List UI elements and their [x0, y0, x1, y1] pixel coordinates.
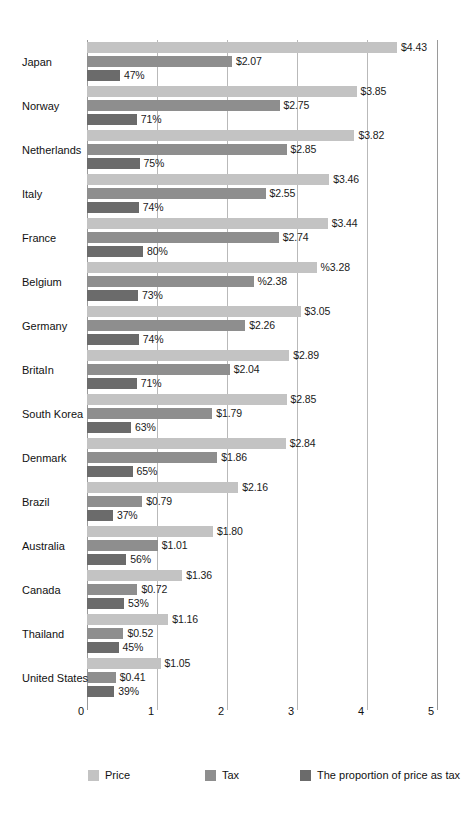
bar-value-label: $1.79 [216, 405, 242, 421]
bar-price [87, 306, 301, 317]
bar-value-label: $2.85 [291, 141, 317, 157]
category-label: Netherlands [0, 143, 78, 157]
bar-chart: $4.43$2.0747%$3.85$2.7571%$3.82$2.8575%$… [0, 0, 467, 816]
category-label: Thailand [0, 627, 78, 641]
bar-value-label: $3.05 [305, 303, 331, 319]
bar-value-label: $1.80 [217, 523, 243, 539]
bar-group: %3.28%2.3873% [87, 262, 437, 306]
bar-prop [87, 378, 137, 389]
bar-tax [87, 56, 232, 67]
category-label: Norway [0, 99, 78, 113]
bar-prop [87, 158, 140, 169]
bar-value-label: %2.38 [258, 273, 287, 289]
legend-item: Tax [205, 766, 239, 784]
bar-group: $1.05$0.4139% [87, 658, 437, 702]
x-tick-label: 0 [78, 704, 87, 718]
bar-tax [87, 144, 287, 155]
bar-price [87, 570, 182, 581]
bar-prop [87, 466, 133, 477]
bar-value-label: 47% [124, 67, 145, 83]
bar-tax [87, 320, 245, 331]
bar-value-label: 71% [141, 111, 162, 127]
x-tick-label: 1 [148, 704, 157, 718]
bar-price [87, 482, 238, 493]
bar-group: $3.44$2.7480% [87, 218, 437, 262]
bar-prop [87, 202, 139, 213]
bar-group: $1.16$0.5245% [87, 614, 437, 658]
bar-value-label: 74% [143, 331, 164, 347]
bar-value-label: $2.55 [270, 185, 296, 201]
bar-value-label: 53% [128, 595, 149, 611]
bar-prop [87, 510, 113, 521]
bar-value-label: $2.74 [283, 229, 309, 245]
bar-tax [87, 452, 217, 463]
category-label: Brazil [0, 495, 78, 509]
bar-tax [87, 276, 254, 287]
bar-value-label: 39% [118, 683, 139, 699]
bar-price [87, 438, 286, 449]
legend-label: The proportion of price as tax [317, 768, 460, 782]
bar-value-label: $3.82 [358, 127, 384, 143]
bar-value-label: $2.85 [291, 391, 317, 407]
bar-value-label: $1.86 [221, 449, 247, 465]
bar-group: $1.80$1.0156% [87, 526, 437, 570]
legend-item: Price [88, 766, 130, 784]
legend-item: The proportion of price as tax [300, 766, 460, 784]
bar-price [87, 394, 287, 405]
bar-prop [87, 334, 139, 345]
x-tick-label: 2 [218, 704, 227, 718]
bar-group: $4.43$2.0747% [87, 42, 437, 86]
bar-prop [87, 290, 138, 301]
bar-tax [87, 188, 266, 199]
legend-swatch [300, 770, 311, 781]
bar-prop [87, 114, 137, 125]
bar-value-label: $3.44 [332, 215, 358, 231]
bar-tax [87, 628, 123, 639]
bar-tax [87, 100, 280, 111]
bar-prop [87, 598, 124, 609]
bar-group: $1.36$0.7253% [87, 570, 437, 614]
bar-group: $3.46$2.5574% [87, 174, 437, 218]
bar-price [87, 614, 168, 625]
bar-value-label: $3.85 [361, 83, 387, 99]
bar-prop [87, 422, 131, 433]
bar-value-label: 80% [147, 243, 168, 259]
bar-value-label: 63% [135, 419, 156, 435]
bar-value-label: 45% [123, 639, 144, 655]
bar-price [87, 658, 161, 669]
bar-group: $3.85$2.7571% [87, 86, 437, 130]
bar-value-label: 75% [144, 155, 165, 171]
bar-value-label: 71% [141, 375, 162, 391]
category-label: France [0, 231, 78, 245]
category-label: Germany [0, 319, 78, 333]
bar-price [87, 350, 289, 361]
legend-label: Price [105, 768, 130, 782]
bar-tax [87, 540, 158, 551]
bar-group: $3.05$2.2674% [87, 306, 437, 350]
bar-value-label: 37% [117, 507, 138, 523]
bar-value-label: $0.79 [146, 493, 172, 509]
plot-area: $4.43$2.0747%$3.85$2.7571%$3.82$2.8575%$… [87, 40, 437, 710]
x-tick-label: 4 [358, 704, 367, 718]
bar-value-label: 74% [143, 199, 164, 215]
bar-tax [87, 672, 116, 683]
bar-prop [87, 554, 126, 565]
bar-value-label: $2.84 [290, 435, 316, 451]
bar-value-label: $1.36 [186, 567, 212, 583]
bar-tax [87, 584, 137, 595]
legend-swatch [88, 770, 99, 781]
bar-value-label: $2.16 [242, 479, 268, 495]
bar-price [87, 262, 317, 273]
bar-value-label: %3.28 [321, 259, 350, 275]
bar-prop [87, 686, 114, 697]
bar-price [87, 130, 354, 141]
category-label: Australia [0, 539, 78, 553]
bar-value-label: $2.89 [293, 347, 319, 363]
bar-value-label: 65% [137, 463, 158, 479]
bar-prop [87, 246, 143, 257]
legend-label: Tax [222, 768, 239, 782]
category-label: Italy [0, 187, 78, 201]
bar-prop [87, 70, 120, 81]
bar-tax [87, 232, 279, 243]
category-label: Denmark [0, 451, 78, 465]
